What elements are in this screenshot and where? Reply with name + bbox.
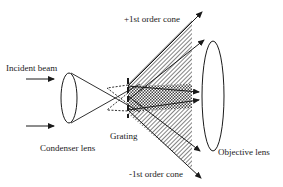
condenser-lens	[61, 73, 77, 123]
zero-order-cone	[128, 84, 192, 112]
label-minus-first-order: -1st order cone	[129, 170, 183, 179]
label-incident-beam: Incident beam	[6, 64, 57, 73]
label-plus-first-order: +1st order cone	[124, 15, 180, 24]
label-objective-lens: Objective lens	[218, 148, 270, 157]
label-grating: Grating	[110, 132, 138, 141]
diffraction-diagram	[0, 0, 283, 187]
objective-lens	[202, 41, 224, 151]
label-condenser-lens: Condenser lens	[40, 144, 95, 153]
